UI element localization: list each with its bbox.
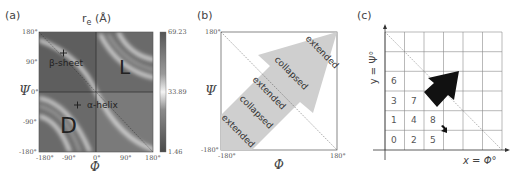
D-region-label: D [60, 113, 77, 138]
cell-2: 2 [411, 135, 417, 145]
x-axis-arrowhead-icon [505, 148, 510, 152]
a-x-symbol: Φ [90, 160, 100, 174]
b-y-symbol: Ψ [205, 83, 216, 98]
x-axis-label: x = Φ° [463, 155, 497, 166]
cell-7: 7 [411, 96, 417, 106]
alpha-helix-label: α-helix [87, 100, 118, 110]
a-xtick-minus90: -90° [62, 154, 76, 162]
a-ytick-minus90: -90° [23, 118, 37, 126]
cell-8: 8 [430, 115, 436, 125]
beta-sheet-label: β-sheet [49, 58, 83, 68]
y-axis-arrowhead-icon [383, 24, 387, 29]
a-xtick-90: 90° [120, 154, 132, 162]
colorbar-max: 69.23 [168, 28, 187, 36]
a-ytick-0: 0° [31, 88, 38, 96]
cell-4: 4 [411, 115, 417, 125]
colorbar-min: 1.46 [168, 148, 182, 156]
b-x-symbol: Φ [274, 158, 284, 172]
b-ytick-180: 180° [205, 28, 221, 36]
b-ytick-minus180: -180° [201, 146, 219, 154]
b-xtick-180: 180° [330, 152, 346, 160]
colorbar-mid: 33.89 [168, 88, 187, 96]
a-ytick-90: 90° [26, 58, 38, 66]
panel-c-label: (c) [357, 9, 372, 22]
panel-c-small-arrow [441, 125, 447, 133]
a-xtick-180: 180° [145, 154, 161, 162]
a-ytick-minus180: -180° [19, 148, 37, 156]
y-axis-label: y = Ψ° [368, 51, 379, 85]
cell-6: 6 [391, 76, 397, 86]
cell-0: 0 [391, 135, 397, 145]
colorbar [160, 32, 166, 152]
cell-1: 1 [391, 115, 397, 125]
a-y-symbol: Ψ [19, 83, 30, 98]
panel-b-label: (b) [197, 9, 213, 22]
cell-5: 5 [430, 135, 436, 145]
b-xtick-minus180: -180° [218, 152, 236, 160]
a-xtick-minus180: -180° [36, 154, 54, 162]
a-ytick-180: 180° [22, 28, 38, 36]
L-region-label: L [119, 55, 130, 79]
cell-3: 3 [391, 96, 397, 106]
